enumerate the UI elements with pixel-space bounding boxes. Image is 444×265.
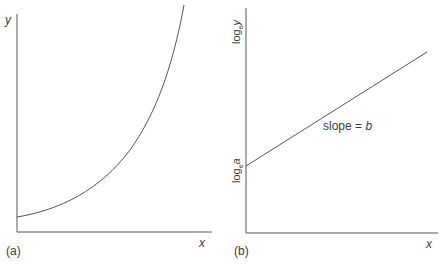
panel-b-y-label: logey <box>230 20 244 44</box>
panel-a-exponential-curve <box>17 5 184 217</box>
y-var: y <box>230 20 242 26</box>
a-var: a <box>230 158 242 164</box>
panel-b-tag: (b) <box>234 244 249 258</box>
panel-a-x-label: x <box>199 236 205 250</box>
panel-b-x-label: x <box>426 237 432 251</box>
panel-a-y-label: y <box>5 13 11 27</box>
slope-text: slope = <box>323 119 365 133</box>
log-base: e <box>237 164 244 168</box>
figure-canvas <box>0 0 444 265</box>
panel-b-intercept-label: logea <box>230 158 244 183</box>
log-base: e <box>237 25 244 29</box>
panel-a-tag: (a) <box>6 244 21 258</box>
panel-b-linear-line <box>246 52 427 166</box>
slope-var: b <box>365 119 372 133</box>
slope-annotation: slope = b <box>323 119 372 133</box>
log-text: log <box>230 29 242 44</box>
log-text: log <box>230 168 242 183</box>
